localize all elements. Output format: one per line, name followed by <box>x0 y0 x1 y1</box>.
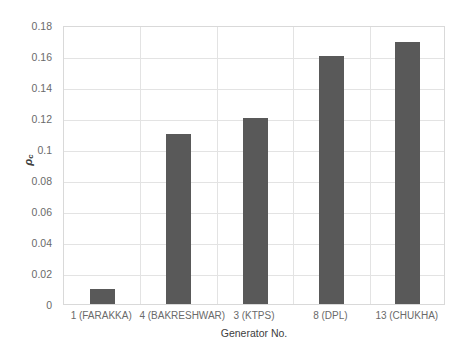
y-axis-tick-label: 0.18 <box>32 21 52 32</box>
x-axis-tick-labels: 1 (FARAKKA)4 (BAKRESHWAR)3 (KTPS)8 (DPL)… <box>63 309 445 325</box>
y-axis-tick-label: 0.12 <box>32 114 52 125</box>
x-axis-tick-label: 1 (FARAKKA) <box>63 309 139 322</box>
bar <box>166 134 191 305</box>
y-axis-tick-labels: 00.020.040.060.080.10.120.140.160.18 <box>0 0 58 352</box>
x-axis-tick-label: 13 (CHUKHA) <box>369 309 445 322</box>
bar <box>319 56 344 304</box>
bar <box>395 42 420 304</box>
y-axis-tick-label: 0 <box>46 300 52 311</box>
y-axis-tick-label: 0.02 <box>32 269 52 280</box>
x-axis-tick-label: 3 (KTPS) <box>216 309 292 322</box>
y-axis-tick-label: 0.14 <box>32 83 52 94</box>
bars-layer <box>64 27 444 304</box>
bar-chart: ρc 00.020.040.060.080.10.120.140.160.18 … <box>0 0 466 352</box>
y-axis-tick-label: 0.16 <box>32 52 52 63</box>
y-axis-tick-label: 0.08 <box>32 176 52 187</box>
x-axis-tick-label: 4 (BAKRESHWAR) <box>139 309 215 322</box>
bar <box>243 118 268 304</box>
bar <box>90 289 115 305</box>
x-axis-tick-label: 8 (DPL) <box>292 309 368 322</box>
y-axis-tick-label: 0.1 <box>37 145 52 156</box>
y-axis-tick-label: 0.06 <box>32 207 52 218</box>
plot-area <box>63 26 445 305</box>
y-axis-tick-label: 0.04 <box>32 238 52 249</box>
x-axis-title: Generator No. <box>63 327 445 339</box>
